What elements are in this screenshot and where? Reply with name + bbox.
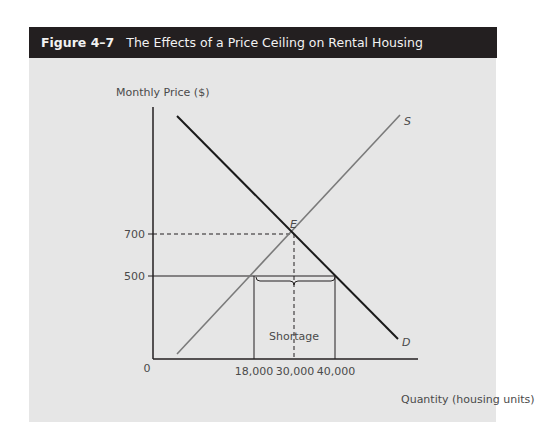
x-tick-label-30000: 30,000 bbox=[276, 365, 315, 378]
x-axis-title: Quantity (housing units) bbox=[401, 393, 535, 406]
supply-label: S bbox=[404, 115, 411, 128]
demand-curve bbox=[177, 116, 398, 339]
x-tick-label-40000: 40,000 bbox=[317, 365, 356, 378]
y-tick-label-700: 700 bbox=[124, 228, 145, 241]
shortage-label: Shortage bbox=[269, 330, 319, 343]
origin-label: 0 bbox=[144, 362, 151, 375]
equilibrium-label: E bbox=[290, 218, 297, 231]
y-axis-title: Monthly Price ($) bbox=[116, 86, 209, 99]
price-ceiling-chart: Monthly Price ($) Quantity (housing unit… bbox=[0, 0, 537, 448]
demand-label: D bbox=[402, 336, 410, 349]
x-tick-label-18000: 18,000 bbox=[235, 365, 274, 378]
shortage-brace bbox=[256, 277, 335, 285]
y-tick-label-500: 500 bbox=[124, 270, 145, 283]
